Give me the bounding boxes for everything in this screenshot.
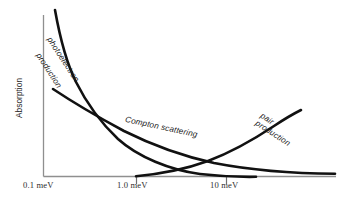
plot-area xyxy=(0,0,347,209)
curve-photoelectron-production xyxy=(55,10,256,177)
figure-canvas: Absorption 0.1 meV 1.0 meV 10 meV photoe… xyxy=(0,0,347,209)
y-axis-title: Absorption xyxy=(14,78,24,118)
x-tick-label-2: 10 meV xyxy=(210,181,238,190)
x-tick-label-0: 0.1 meV xyxy=(23,181,54,190)
x-tick-label-1: 1.0 meV xyxy=(117,181,148,190)
